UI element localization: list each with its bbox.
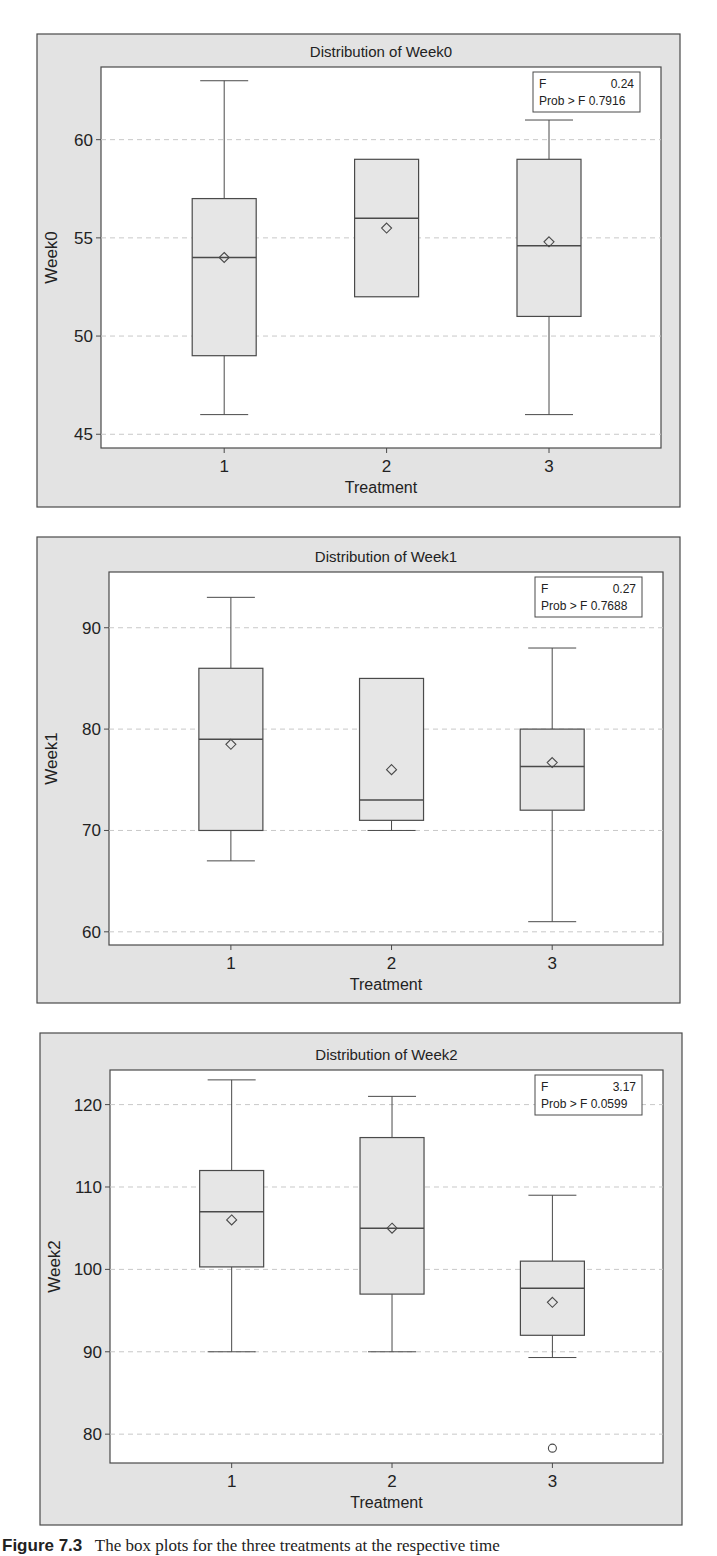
f-statistic-box: F0.27Prob > F 0.7688 — [535, 577, 642, 617]
interquartile-box — [517, 159, 581, 316]
p-value-text: Prob > F 0.7916 — [539, 94, 626, 108]
x-axis-label: Treatment — [350, 1494, 423, 1511]
box-plot-2 — [355, 159, 419, 296]
y-axis-label: Week1 — [42, 732, 61, 785]
interquartile-box — [355, 159, 419, 296]
x-tick-label: 1 — [219, 457, 228, 476]
y-tick-label: 80 — [83, 1425, 102, 1444]
x-tick-label: 3 — [547, 954, 556, 973]
interquartile-box — [360, 1138, 424, 1295]
f-value: 3.17 — [613, 1080, 637, 1094]
interquartile-box — [192, 199, 256, 356]
f-value: 0.27 — [613, 582, 637, 596]
f-statistic-box: F0.24Prob > F 0.7916 — [533, 72, 640, 112]
y-axis-label: Week2 — [45, 1240, 64, 1293]
y-tick-label: 100 — [74, 1260, 102, 1279]
figure-caption-label: Figure 7.3 — [2, 1536, 82, 1555]
f-statistic-box: F3.17Prob > F 0.0599 — [535, 1075, 642, 1115]
x-tick-label: 2 — [382, 457, 391, 476]
y-tick-label: 120 — [74, 1096, 102, 1115]
y-tick-label: 70 — [82, 821, 101, 840]
chart-panel-week1: Distribution of Week160708090Week1123Tre… — [37, 537, 680, 1003]
chart-title: Distribution of Week2 — [315, 1046, 457, 1063]
f-label: F — [541, 582, 548, 596]
y-tick-label: 50 — [74, 327, 93, 346]
chart-panel-week0: Distribution of Week045505560Week0123Tre… — [37, 34, 680, 507]
interquartile-box — [200, 1171, 264, 1267]
chart-title: Distribution of Week1 — [315, 548, 457, 565]
y-tick-label: 60 — [82, 923, 101, 942]
y-tick-label: 45 — [74, 425, 93, 444]
y-tick-label: 55 — [74, 229, 93, 248]
y-tick-label: 90 — [83, 1343, 102, 1362]
y-tick-label: 110 — [75, 1178, 102, 1197]
y-tick-label: 80 — [82, 720, 101, 739]
x-axis-label: Treatment — [350, 976, 423, 993]
interquartile-box — [520, 729, 584, 810]
chart-title: Distribution of Week0 — [310, 43, 452, 60]
chart-panels: Distribution of Week045505560Week0123Tre… — [37, 34, 682, 1525]
interquartile-box — [520, 1261, 584, 1335]
y-tick-label: 90 — [82, 619, 101, 638]
f-label: F — [541, 1080, 548, 1094]
y-axis-label: Week0 — [42, 231, 61, 284]
x-tick-label: 1 — [226, 954, 235, 973]
x-tick-label: 3 — [548, 1472, 557, 1491]
p-value-text: Prob > F 0.0599 — [541, 1097, 628, 1111]
x-tick-label: 2 — [387, 954, 396, 973]
chart-panel-week2: Distribution of Week28090100110120Week21… — [40, 1033, 682, 1525]
figure-caption: Figure 7.3 The box plots for the three t… — [2, 1536, 717, 1556]
x-tick-label: 3 — [544, 457, 553, 476]
interquartile-box — [360, 678, 424, 820]
p-value-text: Prob > F 0.7688 — [541, 599, 628, 613]
x-tick-label: 1 — [227, 1472, 236, 1491]
box-plot-2 — [360, 678, 424, 830]
f-value: 0.24 — [611, 77, 635, 91]
y-tick-label: 60 — [74, 131, 93, 150]
figure-caption-text: The box plots for the three treatments a… — [95, 1536, 500, 1555]
x-tick-label: 2 — [387, 1472, 396, 1491]
x-axis-label: Treatment — [345, 479, 418, 496]
f-label: F — [539, 77, 546, 91]
